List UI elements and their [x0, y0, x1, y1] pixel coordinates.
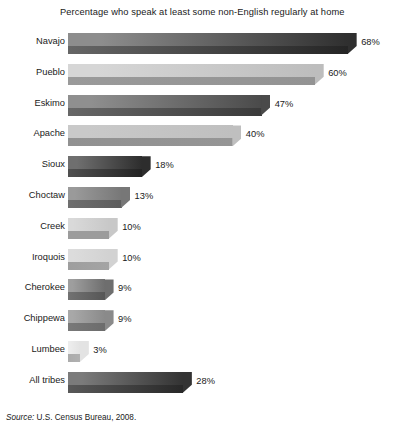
category-label: Choctaw	[0, 190, 65, 200]
bar	[68, 218, 109, 242]
bar	[68, 95, 262, 119]
bar-row: All tribes28%	[0, 369, 394, 399]
bar	[68, 156, 142, 180]
bar	[68, 341, 80, 365]
bar-row: Creek10%	[0, 215, 394, 245]
source-note: Source: U.S. Census Bureau, 2008.	[6, 413, 136, 422]
bar-end-cap	[105, 310, 114, 331]
bar-chart: Percentage who speak at least some non-E…	[0, 0, 394, 436]
plot-area: Navajo68%Pueblo60%Eskimo47%Apache40%Siou…	[0, 30, 394, 400]
category-label: All tribes	[0, 375, 65, 385]
bar-top-face	[68, 33, 348, 46]
bar-end-cap	[261, 95, 270, 116]
source-text: U.S. Census Bureau, 2008.	[34, 413, 136, 422]
bar-top-face	[68, 187, 122, 200]
bar-bottom-face	[68, 77, 315, 85]
bar	[68, 33, 348, 57]
bar	[68, 279, 105, 303]
bar-value-label: 47%	[275, 99, 294, 109]
bar-bottom-face	[68, 354, 80, 362]
bar-top-face	[68, 218, 109, 231]
bar-value-label: 18%	[155, 160, 174, 170]
chart-title: Percentage who speak at least some non-E…	[60, 7, 345, 17]
bar-value-label: 10%	[122, 222, 141, 232]
category-label: Apache	[0, 128, 65, 138]
category-label: Cherokee	[0, 282, 65, 292]
bar-end-cap	[183, 372, 192, 393]
bar-end-cap	[80, 341, 89, 362]
bar-row: Pueblo60%	[0, 61, 394, 91]
bar-bottom-face	[68, 262, 109, 270]
bar-end-cap	[109, 218, 118, 239]
bar-value-label: 10%	[122, 253, 141, 263]
bar-value-label: 40%	[246, 129, 265, 139]
bar-top-face	[68, 279, 105, 292]
bar	[68, 125, 233, 149]
bar-end-cap	[109, 249, 118, 270]
bar-top-face	[68, 95, 262, 108]
bar-top-face	[68, 249, 109, 262]
source-label: Source:	[6, 413, 34, 422]
bar-end-cap	[315, 64, 324, 85]
category-label: Pueblo	[0, 67, 65, 77]
bar	[68, 64, 315, 88]
bar-top-face	[68, 372, 183, 385]
bar-bottom-face	[68, 200, 122, 208]
category-label: Eskimo	[0, 98, 65, 108]
category-label: Sioux	[0, 159, 65, 169]
bar	[68, 310, 105, 334]
bar-row: Apache40%	[0, 122, 394, 152]
bar-top-face	[68, 64, 315, 77]
bar-row: Chippewa9%	[0, 307, 394, 337]
bar-bottom-face	[68, 231, 109, 239]
bar-end-cap	[232, 125, 241, 146]
bar-value-label: 28%	[196, 376, 215, 386]
bar-value-label: 3%	[93, 345, 106, 355]
category-label: Chippewa	[0, 313, 65, 323]
bar	[68, 372, 183, 396]
category-label: Lumbee	[0, 344, 65, 354]
bar-bottom-face	[68, 108, 262, 116]
category-label: Iroquois	[0, 252, 65, 262]
bar-row: Iroquois10%	[0, 246, 394, 276]
bar-bottom-face	[68, 46, 348, 54]
bar	[68, 249, 109, 273]
bar-end-cap	[348, 33, 357, 54]
bar-bottom-face	[68, 169, 142, 177]
bar-bottom-face	[68, 138, 233, 146]
category-label: Creek	[0, 221, 65, 231]
bar-top-face	[68, 125, 233, 138]
bar-row: Cherokee9%	[0, 276, 394, 306]
bar-row: Eskimo47%	[0, 92, 394, 122]
bar-top-face	[68, 341, 80, 354]
bar-value-label: 9%	[118, 314, 131, 324]
bar-value-label: 9%	[118, 283, 131, 293]
bar-end-cap	[142, 156, 151, 177]
bar-top-face	[68, 156, 142, 169]
bar-end-cap	[105, 279, 114, 300]
bar-end-cap	[121, 187, 130, 208]
bar-value-label: 13%	[135, 191, 154, 201]
bar	[68, 187, 122, 211]
bar-row: Sioux18%	[0, 153, 394, 183]
bar-top-face	[68, 310, 105, 323]
bar-value-label: 68%	[361, 37, 380, 47]
category-label: Navajo	[0, 36, 65, 46]
bar-row: Navajo68%	[0, 30, 394, 60]
bar-row: Lumbee3%	[0, 338, 394, 368]
bar-bottom-face	[68, 385, 183, 393]
bar-bottom-face	[68, 292, 105, 300]
bar-row: Choctaw13%	[0, 184, 394, 214]
bar-bottom-face	[68, 323, 105, 331]
bar-value-label: 60%	[328, 68, 347, 78]
